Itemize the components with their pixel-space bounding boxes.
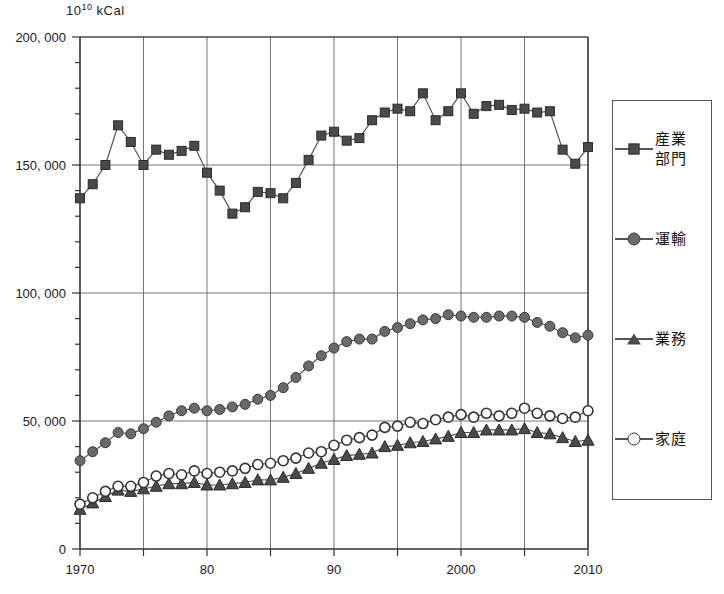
marker-filled-square — [101, 161, 110, 170]
marker-filled-circle — [570, 333, 580, 343]
marker-filled-circle — [189, 403, 199, 413]
marker-filled-square — [406, 107, 415, 116]
legend-item-household[interactable]: 家庭 — [613, 429, 713, 449]
chart-page: 1010 kCal 050, 000100, 000150, 000200, 0… — [0, 0, 724, 594]
marker-filled-circle — [380, 326, 390, 336]
marker-filled-circle — [75, 456, 85, 466]
marker-filled-square — [291, 178, 300, 187]
marker-filled-square — [177, 146, 186, 155]
marker-filled-circle — [418, 315, 428, 325]
marker-filled-circle — [227, 402, 237, 412]
marker-open-circle — [507, 408, 517, 418]
marker-open-circle — [418, 419, 428, 429]
marker-filled-square — [114, 121, 123, 130]
marker-open-circle — [266, 458, 276, 468]
marker-filled-square — [304, 155, 313, 164]
marker-filled-triangle — [188, 476, 200, 487]
chart-legend: 産業 部門 運輸 業務 家庭 — [612, 100, 712, 500]
marker-filled-triangle — [582, 434, 594, 445]
marker-filled-triangle — [519, 423, 531, 434]
filled-square-icon — [613, 139, 655, 159]
marker-filled-circle — [354, 334, 364, 344]
marker-open-circle — [405, 417, 415, 427]
marker-filled-square — [203, 168, 212, 177]
marker-filled-square — [584, 143, 593, 152]
legend-label-commercial: 業務 — [655, 329, 687, 349]
marker-filled-triangle — [303, 462, 315, 473]
marker-filled-square — [431, 116, 440, 125]
marker-open-circle — [380, 422, 390, 432]
marker-filled-triangle — [290, 467, 302, 478]
marker-open-circle — [189, 466, 199, 476]
marker-filled-circle — [583, 330, 593, 340]
marker-open-circle — [139, 477, 149, 487]
marker-open-circle — [304, 448, 314, 458]
x-tick-label: 2010 — [574, 562, 603, 577]
marker-open-circle — [469, 412, 479, 422]
marker-open-circle — [443, 412, 453, 422]
marker-open-circle — [88, 493, 98, 503]
legend-label-household: 家庭 — [655, 429, 687, 449]
marker-filled-circle — [202, 406, 212, 416]
legend-label-transport: 運輸 — [655, 229, 687, 249]
marker-filled-circle — [494, 311, 504, 321]
marker-filled-triangle — [277, 471, 289, 482]
marker-filled-square — [228, 209, 237, 218]
marker-filled-square — [368, 116, 377, 125]
marker-filled-square — [355, 134, 364, 143]
marker-filled-circle — [139, 424, 149, 434]
marker-filled-square — [164, 150, 173, 159]
marker-open-circle — [431, 415, 441, 425]
marker-filled-square — [469, 109, 478, 118]
marker-open-circle — [558, 413, 568, 423]
legend-item-industry[interactable]: 産業 部門 — [613, 129, 713, 169]
marker-open-circle — [151, 471, 161, 481]
marker-filled-circle — [507, 311, 517, 321]
marker-filled-circle — [304, 361, 314, 371]
marker-filled-circle — [405, 319, 415, 329]
marker-filled-square — [495, 100, 504, 109]
filled-triangle-icon — [613, 329, 655, 349]
x-tick-label: 2000 — [447, 562, 476, 577]
y-tick-label: 100, 000 — [15, 286, 66, 301]
marker-filled-circle — [151, 417, 161, 427]
marker-open-circle — [583, 406, 593, 416]
marker-filled-square — [457, 89, 466, 98]
marker-filled-circle — [431, 314, 441, 324]
marker-filled-circle — [316, 351, 326, 361]
marker-filled-circle — [278, 383, 288, 393]
marker-filled-triangle — [531, 427, 543, 438]
y-tick-label: 50, 000 — [23, 414, 66, 429]
marker-filled-circle — [520, 312, 530, 322]
marker-filled-circle — [393, 323, 403, 333]
marker-filled-circle — [266, 390, 276, 400]
marker-filled-square — [215, 186, 224, 195]
marker-filled-square — [418, 89, 427, 98]
legend-item-transport[interactable]: 運輸 — [613, 229, 713, 249]
legend-item-commercial[interactable]: 業務 — [613, 329, 713, 349]
marker-open-circle — [113, 481, 123, 491]
marker-filled-square — [190, 141, 199, 150]
marker-filled-circle — [164, 411, 174, 421]
marker-open-circle — [215, 467, 225, 477]
marker-open-circle — [126, 481, 136, 491]
marker-filled-square — [533, 108, 542, 117]
marker-filled-circle — [88, 447, 98, 457]
marker-filled-circle — [253, 394, 263, 404]
marker-filled-square — [342, 136, 351, 145]
marker-filled-triangle — [442, 430, 454, 441]
marker-filled-circle — [443, 310, 453, 320]
marker-filled-triangle — [328, 453, 340, 464]
marker-filled-circle — [481, 312, 491, 322]
y-tick-label: 150, 000 — [15, 158, 66, 173]
marker-filled-circle — [545, 321, 555, 331]
marker-filled-square — [330, 127, 339, 136]
marker-open-circle — [329, 440, 339, 450]
marker-filled-circle — [113, 428, 123, 438]
marker-filled-square — [266, 189, 275, 198]
marker-open-circle — [291, 453, 301, 463]
marker-filled-circle — [291, 372, 301, 382]
marker-open-circle — [164, 468, 174, 478]
marker-filled-square — [380, 108, 389, 117]
marker-filled-circle — [215, 404, 225, 414]
